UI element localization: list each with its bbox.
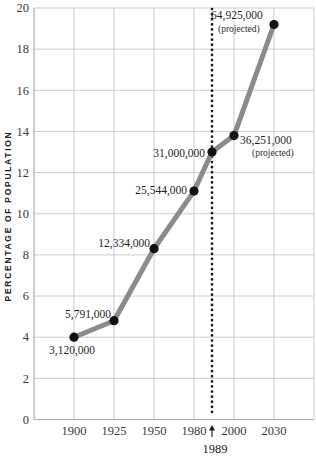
value-label-1900: 3,120,000	[49, 344, 95, 357]
y-tick-label: 18	[17, 42, 30, 56]
value-label-1989: 31,000,000	[153, 147, 205, 160]
reference-year-label: 1989	[203, 442, 228, 456]
value-label-2000: 36,251,000	[240, 134, 292, 147]
population-percentage-line-chart: 0246810121416182019001925195019802000203…	[0, 0, 316, 457]
y-tick-label: 0	[23, 413, 29, 427]
data-point-2000	[229, 131, 238, 140]
value-label-1980: 25,544,000	[135, 184, 187, 197]
y-tick-label: 14	[17, 125, 30, 139]
value-label-2030: 64,925,000	[211, 9, 263, 22]
x-tick-label: 1900	[62, 424, 87, 438]
y-tick-label: 2	[23, 372, 29, 386]
x-tick-label: 1925	[102, 424, 127, 438]
value-label-1925: 5,791,000	[65, 308, 111, 321]
y-tick-label: 10	[17, 207, 30, 221]
y-tick-label: 4	[23, 330, 30, 344]
y-tick-label: 12	[17, 166, 30, 180]
data-point-1989	[207, 147, 216, 156]
data-point-2030	[269, 20, 278, 29]
x-tick-label: 1980	[182, 424, 207, 438]
x-tick-label: 2000	[222, 424, 247, 438]
x-tick-label: 2030	[262, 424, 287, 438]
y-tick-label: 16	[17, 84, 30, 98]
arrow-up-icon	[209, 425, 215, 431]
data-point-1980	[189, 187, 198, 196]
y-tick-label: 20	[17, 1, 30, 15]
data-point-1950	[149, 244, 158, 253]
x-tick-label: 1950	[142, 424, 167, 438]
projected-label-2030: (projected)	[218, 24, 260, 35]
value-label-1950: 12,334,000	[98, 237, 150, 250]
y-tick-label: 6	[23, 289, 29, 303]
trend-line	[74, 25, 274, 338]
projected-label-2000: (projected)	[252, 148, 294, 159]
y-axis-title: PERCENTAGE OF POPULATION	[3, 131, 13, 302]
chart-page: 0246810121416182019001925195019802000203…	[0, 0, 316, 457]
data-point-1900	[69, 333, 78, 342]
y-tick-label: 8	[23, 248, 29, 262]
